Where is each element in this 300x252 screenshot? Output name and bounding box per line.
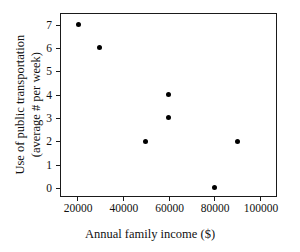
data-point [76,22,81,27]
data-point [235,139,240,144]
x-axis-tick-label: 20000 [64,203,93,215]
x-axis-tick-label: 80000 [201,203,230,215]
x-axis-label: Annual family income ($) [0,228,300,242]
y-axis-label-line1: Use of public transportation [13,35,27,175]
scatter-plot-figure: Use of public transportation (average # … [0,0,300,252]
y-axis-tick-label: 6 [46,43,52,55]
x-axis-tick: 60000 [169,196,170,201]
y-axis-tick-label: 1 [46,160,52,172]
y-axis-tick: 2 [56,141,61,142]
y-axis-tick: 7 [56,25,61,26]
y-axis-tick-label: 3 [46,113,52,125]
y-axis-tick-label: 2 [46,136,52,148]
y-axis-tick: 4 [56,95,61,96]
y-axis-tick-label: 7 [46,20,52,32]
y-axis-tick: 6 [56,48,61,49]
y-axis-tick: 5 [56,71,61,72]
x-axis-tick: 80000 [214,196,215,201]
y-axis-tick: 0 [56,188,61,189]
plot-area: 0123456720000400006000080000100000 [60,13,277,197]
y-axis-label: Use of public transportation (average # … [10,0,48,210]
y-axis-tick: 3 [56,118,61,119]
x-axis-tick-label: 60000 [155,203,184,215]
x-axis-tick: 20000 [77,196,78,201]
data-point [143,139,148,144]
y-axis-tick-label: 4 [46,90,52,102]
data-point [166,115,171,120]
x-axis-tick-label: 100000 [244,203,279,215]
x-axis-tick: 40000 [123,196,124,201]
y-axis-tick-label: 0 [46,183,52,195]
x-axis-tick: 100000 [260,196,261,201]
data-point [166,92,171,97]
x-axis-tick-label: 40000 [109,203,138,215]
y-axis-tick: 1 [56,165,61,166]
plot-canvas [61,14,276,196]
y-axis-tick-label: 5 [46,66,52,78]
data-point [97,45,102,50]
y-axis-label-line2: (average # per week) [29,35,45,175]
data-point [212,185,217,190]
